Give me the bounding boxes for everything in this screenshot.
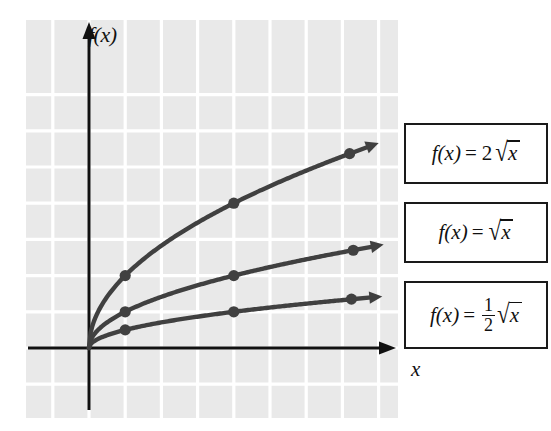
legend-box-two-sqrt-x: f(x) = 2 √ x: [404, 123, 548, 184]
plot-area: [26, 20, 398, 418]
radicand: x: [509, 303, 522, 328]
function-notation: f(x): [439, 220, 468, 245]
curve-layer: [26, 20, 398, 418]
fraction-one-half: 1 2: [482, 296, 495, 334]
y-axis-label: f(x): [88, 22, 117, 48]
figure-root: f(x) x f(x) = 2 √ x f(x) = √ x f(x) =: [0, 0, 551, 431]
function-notation: f(x): [430, 303, 459, 328]
function-notation: f(x): [432, 141, 461, 166]
equals-sign: =: [472, 220, 484, 245]
radicand: x: [507, 141, 520, 166]
square-root-icon: √ x: [489, 220, 514, 245]
square-root-icon: √ x: [495, 141, 520, 166]
fraction-denominator: 2: [482, 315, 495, 334]
legend-box-half-sqrt-x: f(x) = 1 2 √ x: [404, 281, 548, 349]
square-root-icon: √ x: [497, 303, 522, 328]
fraction-numerator: 1: [482, 296, 495, 314]
coefficient: 2: [482, 141, 493, 166]
legend-box-sqrt-x: f(x) = √ x: [404, 202, 548, 263]
formula-two-sqrt-x: f(x) = 2 √ x: [432, 141, 520, 166]
radicand: x: [500, 220, 513, 245]
formula-sqrt-x: f(x) = √ x: [439, 220, 514, 245]
equals-sign: =: [465, 141, 477, 166]
equals-sign: =: [463, 303, 475, 328]
x-axis-label: x: [411, 357, 420, 382]
formula-half-sqrt-x: f(x) = 1 2 √ x: [430, 296, 522, 334]
